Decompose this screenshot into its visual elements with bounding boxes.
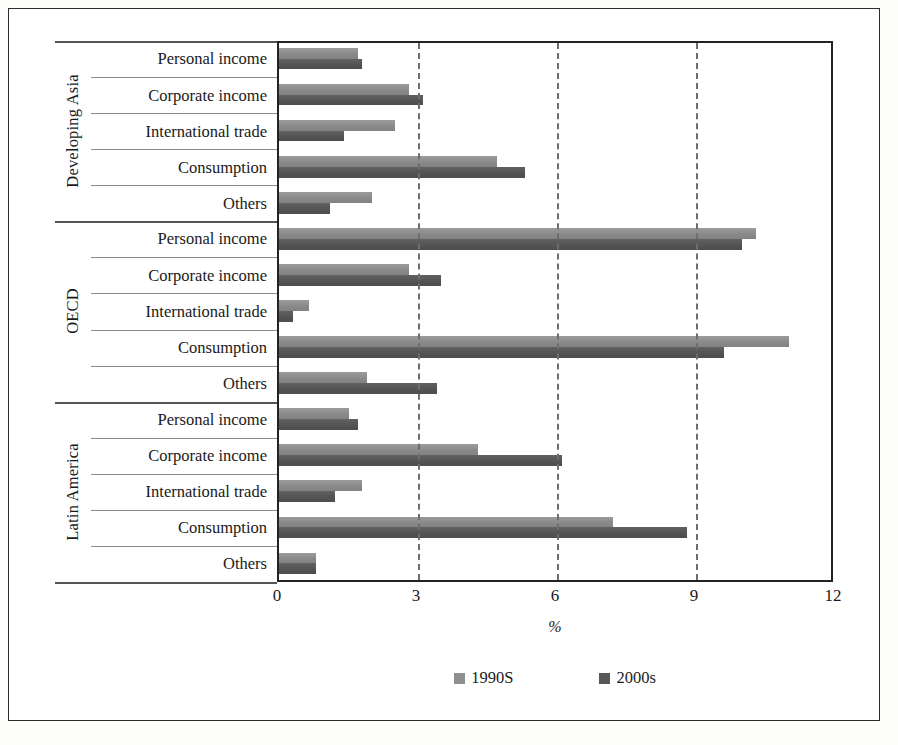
group-separator bbox=[55, 221, 277, 223]
bar-row bbox=[279, 332, 831, 368]
bar-2000s bbox=[279, 131, 344, 142]
group-axis-label: Latin America bbox=[55, 402, 91, 582]
x-axis-title: % bbox=[277, 618, 833, 636]
category-list: Personal incomeCorporate incomeInternati… bbox=[91, 402, 277, 582]
group-oecd: OECDPersonal incomeCorporate incomeInter… bbox=[55, 221, 277, 401]
bar-row bbox=[279, 259, 831, 295]
group-separator bbox=[55, 41, 277, 43]
category-label: Corporate income bbox=[91, 257, 277, 293]
bar-1990s bbox=[279, 228, 756, 239]
bar-2000s bbox=[279, 59, 362, 70]
bar-1990s bbox=[279, 48, 358, 59]
gridline-9 bbox=[696, 43, 698, 580]
bar-row bbox=[279, 368, 831, 404]
category-label: Others bbox=[91, 366, 277, 402]
x-tick-12: 12 bbox=[825, 586, 842, 606]
legend: 1990S 2000s bbox=[277, 665, 833, 691]
bar-2000s bbox=[279, 383, 437, 394]
legend-label-1990s: 1990S bbox=[471, 668, 513, 688]
x-tick-0: 0 bbox=[273, 586, 282, 606]
bar-2000s bbox=[279, 95, 423, 106]
category-label: Consumption bbox=[91, 330, 277, 366]
category-label: International trade bbox=[91, 113, 277, 149]
category-label: Corporate income bbox=[91, 438, 277, 474]
group-separator bbox=[55, 582, 277, 584]
category-label: Personal income bbox=[91, 41, 277, 77]
group-axis-label: Developing Asia bbox=[55, 41, 91, 221]
x-tick-6: 6 bbox=[551, 586, 560, 606]
bar-rows bbox=[279, 43, 831, 580]
group-latin-america: Latin AmericaPersonal incomeCorporate in… bbox=[55, 402, 277, 582]
legend-swatch-icon-1990s bbox=[454, 673, 465, 684]
bar-row bbox=[279, 295, 831, 331]
gridline-3 bbox=[418, 43, 420, 580]
bar-row bbox=[279, 404, 831, 440]
bar-2000s bbox=[279, 239, 742, 250]
bar-2000s bbox=[279, 167, 525, 178]
category-label: Others bbox=[91, 546, 277, 582]
category-list: Personal incomeCorporate incomeInternati… bbox=[91, 221, 277, 401]
x-tick-9: 9 bbox=[690, 586, 699, 606]
bar-1990s bbox=[279, 372, 367, 383]
category-label: Personal income bbox=[91, 402, 277, 438]
category-list: Personal incomeCorporate incomeInternati… bbox=[91, 41, 277, 221]
bar-row bbox=[279, 223, 831, 259]
bar-2000s bbox=[279, 419, 358, 430]
bar-1990s bbox=[279, 300, 309, 311]
bar-1990s bbox=[279, 120, 395, 131]
bar-row bbox=[279, 440, 831, 476]
bar-2000s bbox=[279, 311, 293, 322]
bar-2000s bbox=[279, 527, 687, 538]
bar-1990s bbox=[279, 192, 372, 203]
plot-area bbox=[277, 41, 833, 582]
bar-row bbox=[279, 79, 831, 115]
bar-row bbox=[279, 548, 831, 584]
category-label: Personal income bbox=[91, 221, 277, 257]
chart-page: Developing AsiaPersonal incomeCorporate … bbox=[0, 0, 898, 745]
bar-row bbox=[279, 187, 831, 223]
bar-2000s bbox=[279, 563, 316, 574]
category-label: International trade bbox=[91, 293, 277, 329]
group-axis-label: OECD bbox=[55, 221, 91, 401]
category-label: Consumption bbox=[91, 510, 277, 546]
bar-row bbox=[279, 476, 831, 512]
legend-item-2000s: 2000s bbox=[599, 668, 655, 688]
category-label-column: Developing AsiaPersonal incomeCorporate … bbox=[55, 41, 277, 582]
category-label: Others bbox=[91, 185, 277, 221]
bar-1990s bbox=[279, 156, 497, 167]
category-label: International trade bbox=[91, 474, 277, 510]
bar-1990s bbox=[279, 264, 409, 275]
bar-2000s bbox=[279, 455, 562, 466]
bar-row bbox=[279, 115, 831, 151]
group-developing-asia: Developing AsiaPersonal incomeCorporate … bbox=[55, 41, 277, 221]
bar-1990s bbox=[279, 553, 316, 564]
x-axis-ticks: 036912 bbox=[277, 586, 833, 612]
bar-1990s bbox=[279, 408, 349, 419]
bar-2000s bbox=[279, 491, 335, 502]
category-label: Consumption bbox=[91, 149, 277, 185]
legend-item-1990s: 1990S bbox=[454, 668, 513, 688]
bar-1990s bbox=[279, 517, 613, 528]
bar-1990s bbox=[279, 84, 409, 95]
legend-label-2000s: 2000s bbox=[616, 668, 655, 688]
gridline-6 bbox=[557, 43, 559, 580]
bar-row bbox=[279, 512, 831, 548]
group-separator bbox=[55, 402, 277, 404]
bar-1990s bbox=[279, 444, 478, 455]
category-label: Corporate income bbox=[91, 77, 277, 113]
bar-row bbox=[279, 43, 831, 79]
bar-1990s bbox=[279, 480, 362, 491]
bar-2000s bbox=[279, 203, 330, 214]
bar-1990s bbox=[279, 336, 789, 347]
x-tick-3: 3 bbox=[412, 586, 421, 606]
legend-swatch-icon-2000s bbox=[599, 673, 610, 684]
bar-2000s bbox=[279, 347, 724, 358]
bar-2000s bbox=[279, 275, 441, 286]
bar-row bbox=[279, 151, 831, 187]
